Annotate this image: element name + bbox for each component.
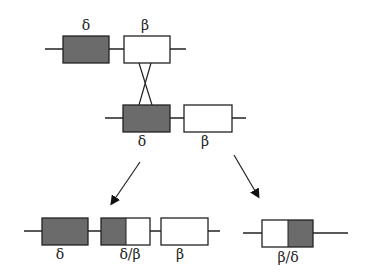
delta-label: δ [138, 133, 146, 149]
beta-label: β [176, 246, 184, 262]
delta-gene-box [123, 105, 170, 132]
bottom-right-chromosome: β/δ [243, 220, 348, 265]
crossover-diagram: δ β δ β δ δ/β β [0, 0, 366, 275]
left-arrow-icon [112, 162, 140, 203]
delta-gene-box [42, 218, 88, 245]
middle-chromosome: δ β [105, 105, 246, 149]
beta-delta-fusion-box [262, 220, 313, 247]
delta-label: δ [56, 246, 64, 262]
delta-label: δ [82, 17, 90, 33]
beta-label: β [141, 17, 149, 33]
delta-beta-fusion-box [101, 218, 150, 245]
delta-beta-label: δ/β [119, 246, 140, 262]
crossover-lines [139, 63, 152, 105]
beta-gene-box [161, 218, 208, 245]
beta-label: β [201, 133, 209, 149]
top-chromosome: δ β [45, 17, 186, 63]
beta-delta-label: β/δ [277, 249, 298, 265]
delta-gene-box [63, 36, 109, 63]
bottom-left-chromosome: δ δ/β β [24, 218, 220, 262]
beta-gene-box [184, 105, 232, 132]
beta-gene-box [124, 36, 170, 63]
right-arrow-icon [234, 155, 258, 196]
